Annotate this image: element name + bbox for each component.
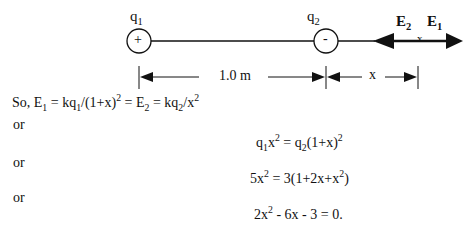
e2-arrow-head-icon bbox=[373, 33, 394, 49]
charge1-sign: + bbox=[134, 32, 142, 48]
distance-label-1: 1.0 m bbox=[219, 68, 251, 84]
or-label: or bbox=[13, 117, 25, 133]
e1-label: E1 bbox=[427, 13, 442, 30]
e1-arrow-head-icon bbox=[446, 33, 463, 49]
equation-3: 2x2 - 6x - 3 = 0. bbox=[254, 207, 343, 223]
field-equality-line: So, E1 = kq1/(1+x)2 = E2 = kq2/x2 bbox=[12, 95, 199, 111]
dim-arrow-icon bbox=[327, 72, 340, 82]
charge2-label: q2 bbox=[307, 8, 320, 25]
charge1-label: q1 bbox=[130, 8, 143, 25]
dim-arrow-icon bbox=[404, 72, 417, 82]
distance-label-2: x bbox=[369, 67, 376, 83]
diagram-graphics bbox=[0, 0, 463, 233]
e2-label: E2 bbox=[396, 13, 411, 30]
point-marker: x bbox=[417, 32, 423, 44]
or-label: or bbox=[13, 190, 25, 206]
charge2-sign: - bbox=[323, 31, 328, 47]
dim-arrow-icon bbox=[312, 72, 325, 82]
dim-arrow-icon bbox=[140, 72, 153, 82]
or-label: or bbox=[13, 155, 25, 171]
equation-2: 5x2 = 3(1+2x+x2) bbox=[250, 171, 349, 187]
equation-1: q1x2 = q2(1+x)2 bbox=[256, 135, 343, 151]
